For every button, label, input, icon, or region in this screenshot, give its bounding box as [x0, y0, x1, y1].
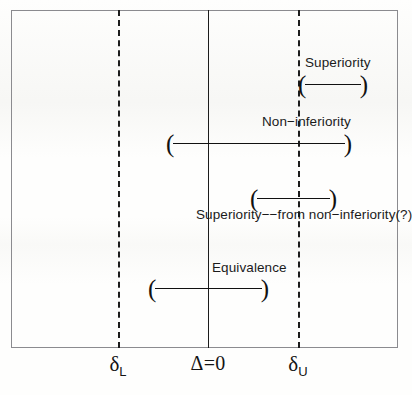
- axis-label-delta-upper-symbol: δ: [288, 352, 298, 376]
- figure-canvas: ( ) Superiority ( ) Non−inferiority ( ) …: [0, 0, 412, 395]
- axis-label-delta-zero-symbol: Δ=0: [190, 352, 225, 374]
- interval-bar: [305, 84, 361, 85]
- interval-right-cap: ): [360, 74, 368, 96]
- interval-left-cap: (: [148, 278, 156, 300]
- axis-label-delta-upper-subscript: U: [298, 364, 307, 379]
- axis-label-delta-lower: δL: [109, 352, 126, 379]
- interval-right-cap: ): [261, 278, 269, 300]
- interval-label-non-inferiority: Non−inferiority: [262, 114, 351, 129]
- confidence-interval-non-inferiority: ( ): [168, 133, 350, 155]
- interval-bar: [257, 198, 330, 199]
- interval-bar: [155, 288, 262, 289]
- reference-line-delta-lower: [118, 10, 120, 348]
- interval-left-cap: (: [166, 133, 174, 155]
- axis-label-delta-lower-symbol: δ: [109, 352, 119, 376]
- interval-bar: [173, 143, 345, 144]
- axis-label-delta-zero: Δ=0: [190, 352, 225, 375]
- reference-line-delta-upper: [298, 10, 300, 348]
- interval-label-superiority-from-non-inferiority: Superiority−−from non−inferiority(?): [196, 207, 412, 222]
- interval-label-superiority: Superiority: [305, 55, 371, 70]
- interval-right-cap: ): [344, 133, 352, 155]
- axis-label-delta-upper: δU: [288, 352, 307, 379]
- interval-left-cap: (: [298, 74, 306, 96]
- axis-label-delta-lower-subscript: L: [119, 364, 126, 379]
- interval-label-equivalence: Equivalence: [212, 260, 287, 275]
- confidence-interval-superiority: ( ): [300, 74, 366, 96]
- confidence-interval-equivalence: ( ): [150, 278, 267, 300]
